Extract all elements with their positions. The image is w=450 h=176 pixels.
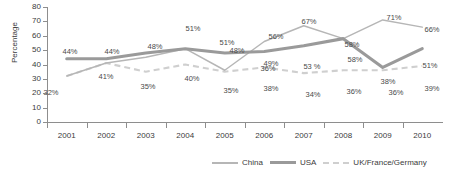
x-tick-label: 2006 xyxy=(244,131,284,140)
point-label-china: 51% xyxy=(219,38,234,47)
y-tick-label: 40 xyxy=(19,61,41,69)
point-label-usa: 44% xyxy=(62,47,77,56)
point-label-uk-france-germany: 40% xyxy=(184,74,199,83)
legend-label-uk-france-germany: UK/France/Germany xyxy=(353,158,426,167)
y-axis-title: Percentage xyxy=(10,3,19,83)
y-tick-label: 70 xyxy=(19,17,41,25)
point-label-uk-france-germany: 32% xyxy=(43,88,58,97)
point-label-usa: 48% xyxy=(229,46,244,55)
legend-swatch-china-icon xyxy=(212,162,238,164)
point-label-usa: 51% xyxy=(185,24,200,33)
point-label-uk-france-germany: 36% xyxy=(388,88,403,97)
y-tick-label: 80 xyxy=(19,3,41,11)
point-label-usa: 53 % xyxy=(303,62,320,71)
line-chart: Percentage 80706050403020100 20012002200… xyxy=(0,0,450,176)
point-label-china: 66% xyxy=(424,25,439,34)
point-label-uk-france-germany: 38% xyxy=(263,84,278,93)
legend-swatch-usa-icon xyxy=(270,161,296,164)
point-label-china: 67% xyxy=(301,17,316,26)
x-tick-label: 2005 xyxy=(205,131,245,140)
x-tick-label: 2009 xyxy=(363,131,403,140)
point-label-usa: 48% xyxy=(147,42,162,51)
point-label-usa: 58% xyxy=(347,55,362,64)
x-tick-label: 2008 xyxy=(323,131,363,140)
point-label-china: 36% xyxy=(260,64,275,73)
y-tick-label: 30 xyxy=(19,75,41,83)
series-line-uk-france-germany xyxy=(67,63,423,76)
x-tick-label: 2001 xyxy=(47,131,87,140)
point-label-china: 71% xyxy=(386,13,401,22)
x-tick-label: 2007 xyxy=(284,131,324,140)
point-label-uk-france-germany: 35% xyxy=(140,82,155,91)
legend-label-china: China xyxy=(242,158,263,167)
y-tick-label: 20 xyxy=(19,89,41,97)
point-label-usa: 38% xyxy=(380,77,395,86)
y-tick-label: 0 xyxy=(19,118,41,126)
point-label-uk-france-germany: 36% xyxy=(346,87,361,96)
legend-item-uk-france-germany[interactable]: UK/France/Germany xyxy=(323,158,426,167)
point-label-usa: 44% xyxy=(104,47,119,56)
plot-area xyxy=(47,6,442,124)
legend-swatch-uk-france-germany-icon xyxy=(323,162,349,164)
x-tick-label: 2010 xyxy=(402,131,442,140)
y-tick-label: 50 xyxy=(19,46,41,54)
x-tick-label: 2003 xyxy=(126,131,166,140)
legend-item-china[interactable]: China xyxy=(212,158,263,167)
series-lines xyxy=(47,6,442,124)
point-label-uk-france-germany: 35% xyxy=(223,86,238,95)
y-tick-label: 60 xyxy=(19,32,41,40)
legend-item-usa[interactable]: USA xyxy=(270,158,316,167)
point-label-uk-france-germany: 41% xyxy=(98,72,113,81)
point-label-uk-france-germany: 34% xyxy=(305,90,320,99)
point-label-china: 58% xyxy=(344,40,359,49)
point-label-usa: 51% xyxy=(422,61,437,70)
x-tick-label: 2004 xyxy=(165,131,205,140)
x-tick-label: 2002 xyxy=(86,131,126,140)
y-tick-label: 10 xyxy=(19,104,41,112)
chart-legend: China USA UK/France/Germany xyxy=(212,158,427,167)
point-label-china: 56% xyxy=(268,32,283,41)
point-label-uk-france-germany: 39% xyxy=(424,84,439,93)
legend-label-usa: USA xyxy=(300,158,316,167)
